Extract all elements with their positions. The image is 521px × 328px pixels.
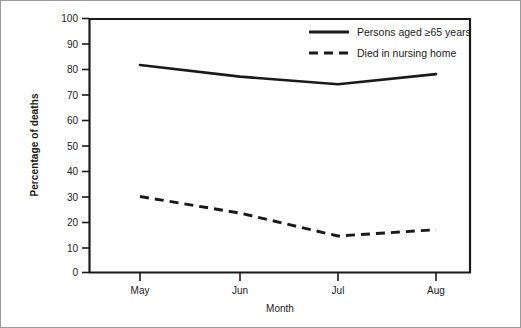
y-axis-ticks [82,19,89,273]
legend-label-persons-aged-65-plus: Persons aged ≥65 years [357,26,471,38]
y-tick-label: 20 [67,217,79,228]
chart-legend: Persons aged ≥65 years Died in nursing h… [309,26,471,59]
y-tick-label: 100 [61,13,78,24]
y-tick-label: 30 [67,192,79,203]
y-tick-label: 40 [67,166,79,177]
x-axis-ticks [140,273,436,281]
series-line-persons-aged-65-plus [140,65,436,84]
chart-figure: Percentage of deaths 100 90 80 70 60 [0,0,521,328]
y-tick-label: 90 [67,39,79,50]
x-axis-title: Month [89,303,471,315]
line-chart-plot: 100 90 80 70 60 50 40 30 20 10 0 May Jun… [1,1,521,328]
x-tick-label-aug: Aug [427,285,445,296]
y-tick-label: 80 [67,64,79,75]
x-tick-label-may: May [131,285,150,296]
y-tick-label: 70 [67,90,79,101]
x-tick-label-jun: Jun [232,285,248,296]
legend-label-died-in-nursing-home: Died in nursing home [357,47,456,59]
y-tick-label: 50 [67,141,79,152]
y-tick-label: 10 [67,243,79,254]
series-line-died-in-nursing-home [140,197,436,237]
x-tick-label-jul: Jul [332,285,345,296]
y-tick-label: 0 [72,267,78,278]
y-tick-label: 60 [67,115,79,126]
